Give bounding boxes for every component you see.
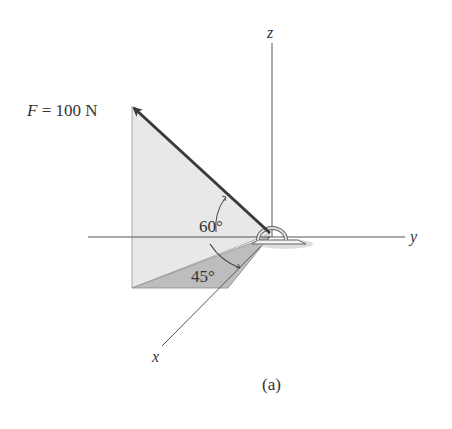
- angle-60-label: 60°: [199, 217, 223, 236]
- y-axis-label: y: [408, 228, 418, 246]
- x-axis-label: x: [151, 348, 159, 365]
- figure-caption: (a): [262, 375, 281, 394]
- force-label: F = 100 N: [26, 101, 98, 120]
- angle-45-label: 45°: [191, 267, 215, 286]
- force-diagram: F = 100 N 60° 45° z y x (a): [0, 0, 452, 429]
- support-bracket-icon: [252, 228, 313, 249]
- z-axis-label: z: [266, 24, 274, 41]
